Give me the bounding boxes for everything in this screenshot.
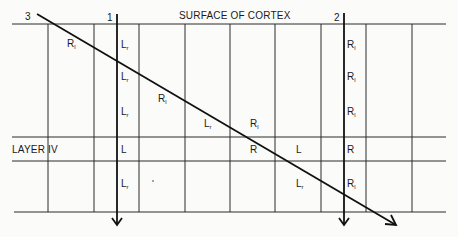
cell-label: Lr xyxy=(204,118,212,130)
cell-label: Rl xyxy=(67,38,76,50)
cell-label: L xyxy=(121,144,127,155)
cell-label: Lr xyxy=(121,106,129,118)
cell-label: Rl xyxy=(347,71,356,83)
cell-label: Lr xyxy=(121,71,129,83)
layer-iv-label: LAYER IV xyxy=(12,144,58,155)
cell-label: Rl xyxy=(158,93,167,105)
cell-label: Rl xyxy=(250,118,259,130)
electrode-1: 1 xyxy=(107,12,122,225)
cell-label: L xyxy=(296,144,302,155)
cell-label: Rl xyxy=(347,39,356,51)
eye-preference-labels: Rl Lr Lr Rl Lr Lr Rl Rl Rl Rl L R L R Lr… xyxy=(67,38,356,190)
cortex-surface-title: SURFACE OF CORTEX xyxy=(179,10,291,21)
cell-label: Lr xyxy=(121,39,129,51)
electrode-3: 3 xyxy=(25,11,396,225)
electrode-2-label: 2 xyxy=(334,12,340,23)
cell-label: Lr xyxy=(296,178,304,190)
electrode-1-label: 1 xyxy=(107,12,113,23)
cell-label: R xyxy=(250,144,257,155)
diagram-canvas: 1 2 3 SURFACE OF CORTEX LAYER IV Rl Lr L… xyxy=(0,0,458,237)
ocular-dominance-diagram: 1 2 3 SURFACE OF CORTEX LAYER IV Rl Lr L… xyxy=(0,0,458,237)
electrode-3-label: 3 xyxy=(25,11,31,22)
cell-label: Lr xyxy=(121,178,129,190)
electrode-3-track xyxy=(37,14,396,225)
cell-label: Rl xyxy=(347,178,356,190)
cell-label: R xyxy=(347,144,354,155)
cell-label: Rl xyxy=(347,106,356,118)
speck-mark xyxy=(152,180,154,182)
